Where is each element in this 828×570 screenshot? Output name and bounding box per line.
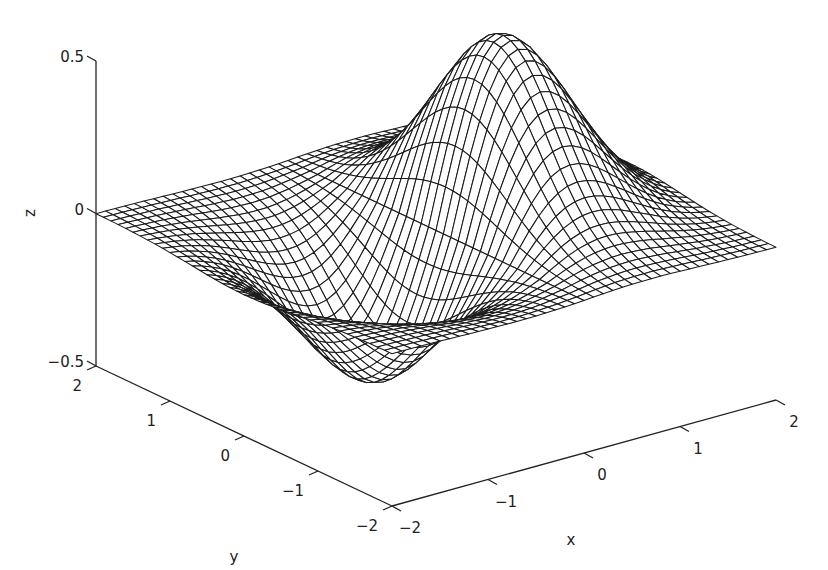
x-tick-label: −2 [399,519,421,537]
z-tick [87,361,96,366]
x-tick [488,480,497,485]
y-tick [161,401,170,405]
x-tick [392,506,401,511]
x-tick-label: 0 [597,466,607,484]
x-tick-label: 2 [789,413,799,431]
x-tick-label: −1 [495,493,517,511]
x-tick-label: 1 [693,440,703,458]
z-tick [87,209,96,214]
y-tick [87,366,96,370]
mesh-surface [96,34,776,383]
y-axis-label: y [230,548,239,566]
surface-plot: −0.500.5−2−1012−2−1012 z y x [0,0,828,570]
y-tick-label: 1 [146,412,156,430]
z-axis-label: z [21,209,39,217]
x-tick [584,453,593,458]
z-tick-label: −0.5 [48,353,84,371]
y-tick [309,471,318,475]
x-tick [776,400,785,405]
x-tick [680,427,689,432]
y-tick-label: 2 [72,377,82,395]
z-tick-label: 0.5 [60,48,84,66]
y-tick [235,436,244,440]
z-tick-label: 0 [74,201,84,219]
y-tick-label: 0 [220,447,230,465]
y-tick-label: −1 [282,482,304,500]
x-axis-label: x [567,531,576,549]
z-tick [87,56,96,61]
y-tick [383,506,392,510]
y-tick-label: −2 [356,517,378,535]
